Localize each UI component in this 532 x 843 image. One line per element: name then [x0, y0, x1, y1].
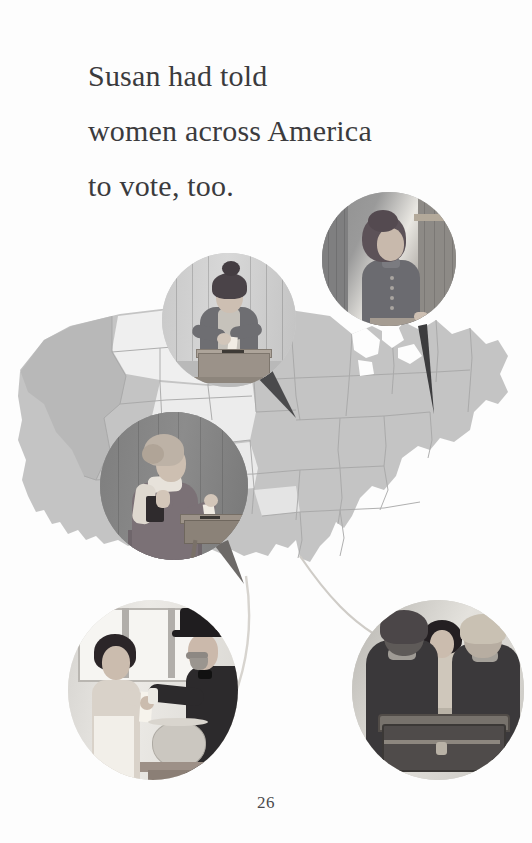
- vignette-woman-ballot-box: [162, 253, 296, 387]
- vignette-woman-and-man-top-hat: [68, 600, 238, 780]
- text-line-1: Susan had told: [88, 48, 488, 103]
- vignette-voters-at-ballot-chest: [352, 600, 524, 780]
- vignette-woman-at-desk: [322, 192, 456, 326]
- page-number: 26: [0, 793, 532, 813]
- text-line-2: women across America: [88, 103, 488, 158]
- map-light-state-sw: [254, 486, 300, 516]
- book-page: Susan had told women across America to v…: [0, 0, 532, 843]
- page-text: Susan had told women across America to v…: [88, 48, 488, 213]
- vignette-older-woman-voting: [100, 412, 248, 560]
